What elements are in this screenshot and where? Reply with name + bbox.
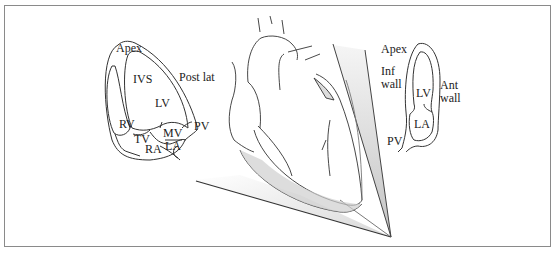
label-apex-right: Apex: [381, 43, 407, 55]
label-ant-wall-1: Ant: [440, 79, 458, 91]
label-ivs: IVS: [133, 73, 152, 85]
label-rv: RV: [119, 118, 135, 130]
label-apex-left: Apex: [116, 42, 142, 54]
label-la-right: LA: [414, 118, 430, 130]
ultrasound-beam: [193, 44, 391, 237]
label-pv-left: PV: [194, 120, 209, 132]
label-lv-right: LV: [416, 87, 431, 99]
label-lv-left: LV: [155, 97, 170, 109]
label-inf-wall-1: Inf: [381, 65, 395, 77]
label-mv: MV: [163, 127, 182, 139]
label-pv-right: PV: [387, 135, 402, 147]
label-ra: RA: [145, 143, 162, 155]
label-la-left: LA: [165, 140, 181, 152]
heart-illustration: [0, 0, 555, 253]
label-post-lat: Post lat: [179, 71, 215, 83]
label-ant-wall-2: wall: [440, 92, 461, 104]
label-inf-wall-2: wall: [381, 78, 402, 90]
